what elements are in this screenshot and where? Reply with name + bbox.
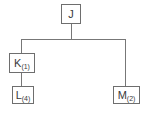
node-m-subscript: (2) [127,95,136,102]
node-l: L(4) [12,86,34,104]
node-k: K(1) [9,53,35,73]
node-k-label: K [14,58,21,69]
edge-j-trunk [71,23,72,39]
edge-j-k [21,39,22,53]
edge-k-l [21,72,22,86]
node-j: J [61,4,81,24]
edge-j-horizontal [21,39,126,40]
node-m-label: M [118,90,127,101]
node-l-subscript: (4) [22,95,31,102]
edge-j-m [125,39,126,86]
node-m: M(2) [113,86,140,104]
node-j-label: J [68,9,74,20]
node-k-subscript: (1) [21,63,30,70]
